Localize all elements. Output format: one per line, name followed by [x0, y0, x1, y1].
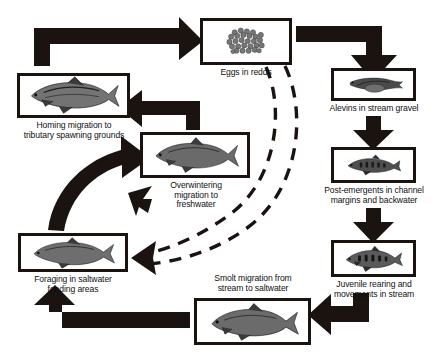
caption-alevins: Alevins in stream gravel — [320, 104, 428, 114]
saltwater-adult-fish-illustration — [21, 236, 125, 269]
arrow-overwintering-to-foraging-short — [128, 186, 152, 216]
caption-foraging: Foraging in saltwater feeding areas — [18, 275, 128, 294]
post-emergent-fry-illustration — [334, 150, 413, 180]
node-alevins[interactable] — [331, 68, 416, 101]
node-homing[interactable] — [17, 73, 130, 118]
spawning-adult-trout-illustration — [20, 76, 127, 115]
egg-cluster-illustration — [203, 21, 289, 62]
caption-post-emergents: Post-emergents in channel margins and ba… — [311, 186, 437, 205]
overwintering-trout-illustration — [143, 135, 247, 175]
caption-eggs-in-redds: Eggs in redds — [196, 68, 296, 78]
node-eggs-in-redds[interactable] — [200, 18, 292, 65]
caption-smolt: Smolt migration from stream to saltwater — [194, 274, 312, 293]
arrow-juvenile-to-smolt — [308, 293, 369, 335]
node-post-emergents[interactable] — [331, 147, 416, 183]
arrow-postemergents-to-juvenile — [353, 208, 394, 243]
smolt-fish-illustration — [197, 301, 308, 342]
node-foraging[interactable] — [18, 233, 128, 272]
alevin-fish-illustration — [334, 71, 413, 98]
caption-juvenile: Juvenile rearing and movements in stream — [318, 280, 430, 299]
arrow-foraging-to-overwintering — [48, 136, 150, 231]
caption-homing: Homing migration to tributary spawning g… — [9, 121, 139, 140]
node-smolt[interactable] — [194, 298, 311, 345]
node-overwintering[interactable] — [140, 132, 250, 178]
caption-overwintering: Overwintering migration to freshwater — [150, 181, 242, 210]
arrowhead-dashed-arcs-to-foraging — [131, 241, 156, 275]
juvenile-parr-illustration — [334, 243, 413, 274]
node-juvenile[interactable] — [331, 240, 416, 277]
life-cycle-diagram: Eggs in redds Alevins in stream gravel — [0, 0, 444, 355]
arrow-alevins-to-postemergents — [353, 116, 394, 150]
arrow-homing-to-eggs — [34, 17, 203, 66]
